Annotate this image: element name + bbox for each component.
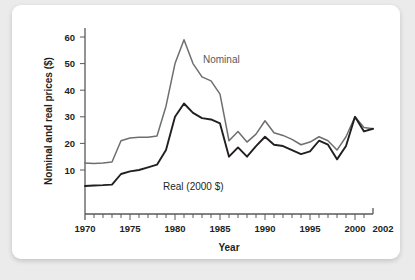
y-tick-label-20: 20 (64, 138, 75, 149)
x-tick-label-1990: 1990 (254, 223, 275, 234)
series-annotation-nominal: Nominal (203, 54, 240, 65)
series-line-real (85, 104, 373, 186)
y-tick-label-10: 10 (64, 165, 75, 176)
series-annotation-real: Real (2000 $) (163, 181, 224, 192)
y-axis-ticks (80, 37, 85, 170)
y-tick-label-40: 40 (64, 85, 75, 96)
chart-figure: 60 50 40 30 20 10 Nominal and real price… (0, 0, 415, 280)
y-axis-title: Nominal and real prices ($) (43, 57, 54, 185)
x-tick-label-1975: 1975 (119, 223, 141, 234)
x-tick-label-2000: 2000 (344, 223, 365, 234)
x-axis-minor-ticks (94, 214, 364, 220)
y-tick-label-30: 30 (64, 111, 75, 122)
x-tick-label-1995: 1995 (299, 223, 321, 234)
x-axis-title: Year (218, 242, 239, 253)
x-tick-label-2002: 2002 (372, 223, 393, 234)
y-tick-label-50: 50 (64, 58, 75, 69)
x-tick-label-1985: 1985 (209, 223, 231, 234)
chart-svg: 60 50 40 30 20 10 Nominal and real price… (0, 0, 415, 280)
y-tick-label-60: 60 (64, 32, 75, 43)
x-tick-label-1970: 1970 (74, 223, 95, 234)
x-tick-label-1980: 1980 (164, 223, 185, 234)
